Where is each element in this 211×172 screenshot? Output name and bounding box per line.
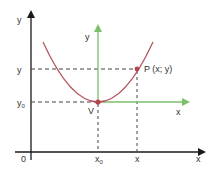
translated-x-axis-label: x bbox=[176, 107, 181, 117]
y-tick-label: y bbox=[17, 65, 22, 75]
y0-tick-label: y0 bbox=[17, 98, 26, 109]
x0-tick-label: x0 bbox=[95, 154, 104, 165]
vertex-point bbox=[95, 99, 100, 104]
point-p-label: P (x; y) bbox=[144, 64, 172, 74]
point-p bbox=[135, 67, 140, 72]
main-x-axis-label: x bbox=[196, 154, 201, 164]
origin-label: 0 bbox=[21, 154, 26, 164]
parabola-diagram: 0 x y x y y y0 x0 x V P (x; y) bbox=[0, 0, 211, 172]
main-y-axis-label: y bbox=[17, 15, 22, 25]
x-tick-label: x bbox=[135, 154, 140, 164]
vertex-label: V bbox=[88, 106, 94, 116]
translated-y-axis-label: y bbox=[85, 32, 90, 42]
